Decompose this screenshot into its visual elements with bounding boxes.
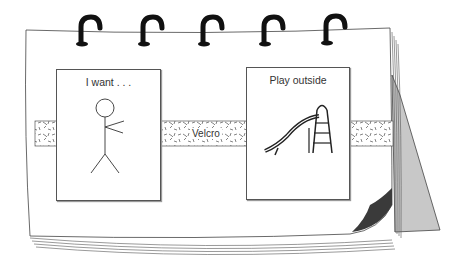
card-i-want: I want . . . (56, 69, 161, 201)
card-play-outside: Play outside (246, 67, 350, 200)
stick-figure-pointing-icon (57, 70, 160, 200)
playground-slide-icon (247, 68, 349, 199)
page-stack-bottom (30, 238, 395, 255)
velcro-label: Velcro (190, 128, 222, 139)
